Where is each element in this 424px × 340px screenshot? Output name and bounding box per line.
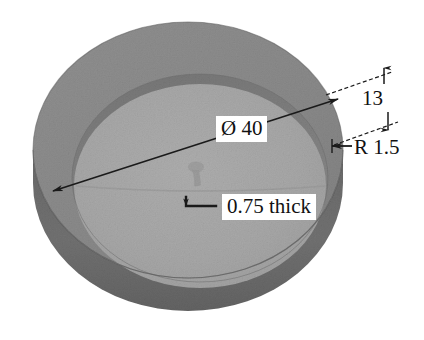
radius-dimension-label: R 1.5 <box>354 137 400 158</box>
part-render <box>0 0 424 340</box>
diameter-dimension-label: Ø 40 <box>216 116 267 142</box>
technical-illustration-canvas: Ø 40 0.75 thick 13 R 1.5 <box>0 0 424 340</box>
part-body <box>33 22 343 311</box>
thickness-dimension-label: 0.75 thick <box>222 194 316 220</box>
height-dimension-label: 13 <box>362 88 383 109</box>
